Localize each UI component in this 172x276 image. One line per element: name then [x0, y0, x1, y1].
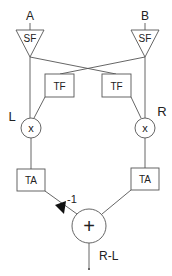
tf-label-left: TF [53, 81, 65, 92]
multiplier-left-symbol: x [28, 122, 34, 134]
tf-label-right: TF [110, 81, 122, 92]
input-a-label: A [26, 9, 34, 23]
output-terminal-icon [88, 268, 90, 270]
multiplier-right-symbol: x [142, 122, 148, 134]
output-label: R-L [99, 249, 119, 263]
signal-flow-diagram: A B SF SF TF TF L R x x TA TA -1 + R-L [0, 0, 172, 276]
gain-label: -1 [67, 193, 77, 205]
channel-label-left: L [8, 109, 15, 124]
channel-label-right: R [157, 104, 166, 119]
sf-label-left: SF [24, 33, 37, 44]
tf-left-to-mult-left [34, 97, 45, 118]
summer-symbol: + [83, 215, 95, 237]
ta-right-to-summer [102, 190, 131, 214]
ta-label-left: TA [25, 175, 37, 186]
ta-label-right: TA [139, 174, 151, 185]
sf-label-right: SF [139, 33, 152, 44]
tf-right-to-mult-right [131, 97, 141, 118]
input-b-label: B [141, 9, 149, 23]
gain-arrow-icon [55, 201, 66, 214]
